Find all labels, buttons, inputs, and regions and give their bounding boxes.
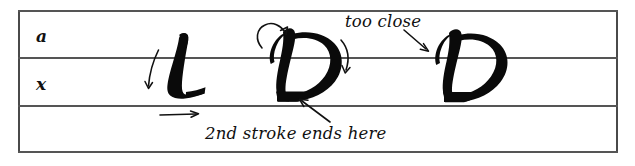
annotation-second-stroke: 2nd stroke ends here bbox=[205, 126, 387, 143]
frame-left-border bbox=[18, 10, 20, 153]
frame-right-border bbox=[616, 10, 618, 153]
specimen-letter-l bbox=[150, 32, 210, 110]
guideline-bottom bbox=[18, 151, 618, 153]
annotation-too-close: too close bbox=[345, 14, 421, 31]
calligraphy-guideline-figure: a x to bbox=[0, 0, 635, 166]
zone-label-x-height: x bbox=[36, 76, 46, 93]
specimen-letter-d-plain bbox=[424, 26, 518, 108]
specimen-letter-d-annotated bbox=[256, 24, 354, 108]
zone-label-ascender: a bbox=[36, 28, 47, 45]
guideline-top bbox=[18, 10, 618, 12]
